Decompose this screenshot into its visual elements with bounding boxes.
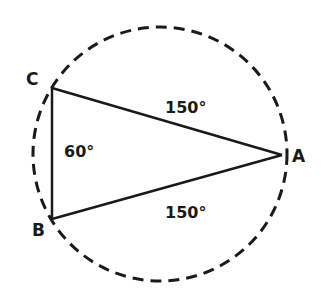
arc-label-bc: 60° xyxy=(64,142,94,161)
arc-label-ab: 150° xyxy=(165,203,206,222)
arc-label-ca: 150° xyxy=(165,98,206,117)
vertex-label-c: C xyxy=(26,69,38,89)
vertex-label-a: A xyxy=(292,146,306,166)
vertex-label-b: B xyxy=(32,220,45,240)
inscribed-triangle-diagram: C B A 150° 150° 60° xyxy=(0,0,328,298)
